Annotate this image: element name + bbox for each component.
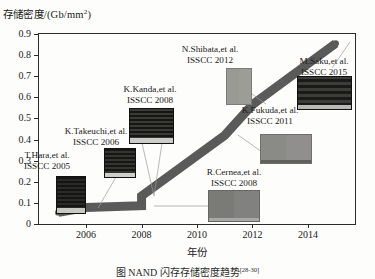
data-point-k-fukuda: [221, 132, 228, 138]
annotation-author: T.Hara,et al.: [24, 150, 69, 160]
annotation-r-cernea: R.Cernea,et al. ISSCC 2008: [192, 167, 276, 189]
x-axis-title: 年份: [39, 244, 355, 259]
thumbnail-t-hara-die-photo: [56, 176, 86, 214]
y-tick-label: 0.9: [19, 29, 32, 39]
y-tick-label: 0.7: [19, 71, 32, 81]
annotation-conference: ISSCC 2008: [108, 95, 192, 106]
x-tick-label: 2006: [76, 230, 96, 240]
figure-caption-ref: [28-30]: [240, 266, 260, 273]
data-point-r-cernea: [138, 202, 145, 208]
annotation-author: K.Kanda,et al.: [123, 84, 176, 94]
data-point-k-kanda: [138, 193, 145, 199]
thumbnail-k-fukuda-die-photo: [260, 134, 312, 164]
figure-caption: 图 NAND 闪存存储密度趋势[28-30]: [0, 264, 375, 279]
y-axis-title-text: 存储密度/(Gb/mm2): [3, 9, 91, 20]
annotation-k-kanda: K.Kanda,et al. ISSCC 2008: [108, 84, 192, 106]
annotation-k-takeuchi: K.Takeuchi,et al. ISSCC 2006: [53, 126, 139, 148]
y-tick-label: 0.8: [19, 50, 32, 60]
annotation-author: K.Takeuchi,et al.: [65, 126, 128, 136]
annotation-author: K.Fukuda,et al.: [242, 105, 299, 115]
y-tick-label: 0.4: [19, 135, 32, 145]
y-tick-label: 0: [26, 219, 31, 229]
figure-caption-text: 图 NAND 闪存存储密度趋势: [116, 267, 240, 278]
annotation-author: R.Cernea,et al.: [207, 167, 262, 177]
annotation-conference: ISSCC 2008: [192, 178, 276, 189]
annotation-m-saku: M.Saku,et al. ISSCC 2015: [282, 56, 366, 78]
annotation-conference: ISSCC 2012: [165, 55, 255, 66]
thumbnail-k-kanda-die-photo: [129, 108, 174, 144]
thumbnail-k-takeuchi-die-photo: [104, 148, 136, 178]
y-tick-label: 0.5: [19, 113, 32, 123]
annotation-conference: ISSCC 2005: [12, 161, 82, 172]
x-tick-label: 2012: [242, 230, 262, 240]
thumbnail-m-saku-die-photo: [297, 76, 352, 110]
thumbnail-r-cernea-die-photo: [208, 190, 260, 222]
annotation-conference: ISSCC 2006: [53, 137, 139, 148]
annotation-author: N.Shibata,et al.: [182, 44, 239, 54]
y-tick-label: 0.6: [19, 92, 32, 102]
x-tick-label: 2014: [298, 230, 318, 240]
y-axis-title: 存储密度/(Gb/mm2): [3, 6, 91, 21]
y-tick-label: 0.1: [19, 198, 32, 208]
annotation-author: M.Saku,et al.: [300, 56, 349, 66]
data-point-m-saku: [332, 40, 339, 46]
annotation-n-shibata: N.Shibata,et al. ISSCC 2012: [165, 44, 255, 66]
x-tick-label: 2010: [187, 230, 207, 240]
x-tick-label: 2008: [132, 230, 152, 240]
thumbnail-n-shibata-die-photo: [226, 68, 252, 105]
annotation-t-hara: T.Hara,et al. ISSCC 2005: [12, 150, 82, 172]
annotation-conference: ISSCC 2011: [228, 116, 312, 127]
y-tick-label: 0.2: [19, 177, 32, 187]
